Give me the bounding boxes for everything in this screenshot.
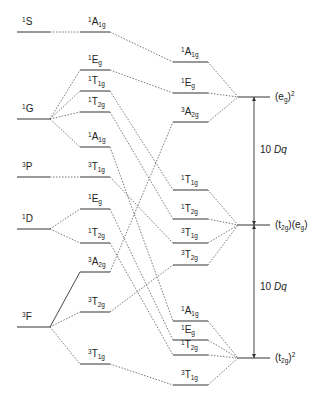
strong-field-label: 1T1g xyxy=(181,174,198,187)
weak-field-label: 3T1g xyxy=(88,348,105,361)
strong-field-label: 1T2g xyxy=(181,339,198,352)
weak-field-label: 1A1g xyxy=(88,131,106,144)
energy-levels xyxy=(17,32,270,385)
correlation-line xyxy=(110,265,173,312)
connection-lines xyxy=(50,32,238,385)
term-splitting-line xyxy=(50,272,80,327)
term-splitting-line xyxy=(50,119,80,147)
correlation-diagram: 1S1G3P1D3F1A1g1Eg1T1g1T2g1A1g3T1g1Eg1T2g… xyxy=(0,0,319,403)
config-correlation-line xyxy=(208,358,238,385)
config-correlation-line xyxy=(208,321,238,358)
weak-field-label: 3T1g xyxy=(88,161,105,174)
gap-label-10dq: 10 Dq xyxy=(260,281,287,292)
weak-field-label: 1A1g xyxy=(88,16,106,29)
correlation-line xyxy=(110,91,173,190)
weak-field-label: 1T2g xyxy=(88,96,105,109)
config-correlation-line xyxy=(208,225,238,265)
strong-field-label: 3T2g xyxy=(181,249,198,262)
config-correlation-line xyxy=(208,93,238,97)
config-correlation-line xyxy=(208,62,238,97)
arrowhead-icon xyxy=(252,354,256,358)
config-label-t2g2: (t2g)2 xyxy=(275,351,296,365)
correlation-line xyxy=(110,147,173,321)
correlation-line xyxy=(110,364,173,385)
correlation-line xyxy=(110,112,173,219)
gap-label-10dq: 10 Dq xyxy=(260,144,287,155)
config-label-t2geg: (t2g)(eg) xyxy=(275,219,308,232)
free-ion-label-3P: 3P xyxy=(22,161,33,172)
config-correlation-line xyxy=(208,225,238,243)
correlation-line xyxy=(110,177,173,243)
strong-field-label: 1A1g xyxy=(181,46,199,59)
correlation-line xyxy=(110,122,173,272)
strong-field-label: 1T2g xyxy=(181,203,198,216)
correlation-line xyxy=(110,243,173,355)
arrowhead-icon xyxy=(252,97,256,101)
term-splitting-line xyxy=(50,70,80,119)
weak-field-label: 1T1g xyxy=(88,75,105,88)
config-correlation-line xyxy=(208,190,238,225)
strong-field-label: 1A1g xyxy=(181,305,199,318)
strong-field-label: 3T1g xyxy=(181,227,198,240)
config-correlation-line xyxy=(208,97,238,122)
weak-field-label: 1Eg xyxy=(88,193,102,206)
free-ion-label-1D: 1D xyxy=(22,213,33,224)
free-ion-label-1S: 1S xyxy=(22,16,33,27)
weak-field-label: 3T2g xyxy=(88,296,105,309)
term-splitting-line xyxy=(50,327,80,364)
strong-field-label: 3A2g xyxy=(181,106,199,119)
level-labels: 1S1G3P1D3F1A1g1Eg1T1g1T2g1A1g3T1g1Eg1T2g… xyxy=(22,16,308,382)
correlation-line xyxy=(110,70,173,93)
free-ion-label-1G: 1G xyxy=(22,103,34,114)
weak-field-label: 3A2g xyxy=(88,256,106,269)
term-splitting-line xyxy=(50,229,80,243)
strong-field-label: 1Eg xyxy=(181,77,195,90)
strong-field-label: 1Eg xyxy=(181,324,195,337)
arrowhead-icon xyxy=(252,225,256,229)
term-splitting-line xyxy=(50,112,80,119)
config-correlation-line xyxy=(208,340,238,358)
weak-field-label: 1T2g xyxy=(88,227,105,240)
term-splitting-line xyxy=(50,209,80,229)
correlation-line xyxy=(110,209,173,340)
config-correlation-line xyxy=(208,355,238,358)
arrowhead-icon xyxy=(252,221,256,225)
config-label-eg2: (eg)2 xyxy=(275,90,295,104)
energy-gap-arrows xyxy=(252,97,256,358)
weak-field-label: 1Eg xyxy=(88,54,102,67)
strong-field-label: 3T1g xyxy=(181,369,198,382)
free-ion-label-3F: 3F xyxy=(22,311,32,322)
correlation-line xyxy=(110,32,173,62)
